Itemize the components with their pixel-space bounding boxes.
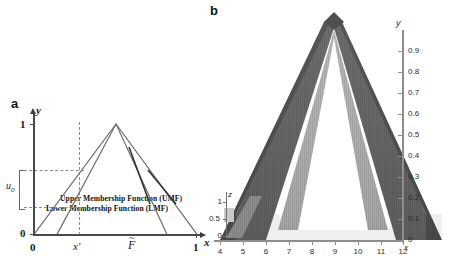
panel-b-x-tick-8: 12 — [396, 247, 410, 256]
panel-b-y-tick-mark-7 — [398, 198, 402, 199]
panel-b-y-tick-3: 0.6 — [408, 109, 419, 118]
figure-container: a Upper Membership Function (UMF) Lower … — [0, 0, 454, 276]
panel-b-y-tick-mark-8 — [398, 219, 402, 220]
panel-a-x-prime-label: x' — [73, 240, 80, 252]
panel-b-x-tick-mark-6 — [358, 241, 359, 245]
panel-b-y-tick-mark-4 — [398, 135, 402, 136]
fuzzy-set-symbol: ~F — [128, 238, 135, 253]
panel-b: y x 0.9 0.8 0.7 0.6 0.5 0.4 0.3 0.2 0.1 … — [206, 0, 454, 276]
panel-b-inset-axis: z 1 0.5 0 — [210, 192, 250, 248]
x-tick-mark-1 — [196, 234, 197, 238]
panel-b-y-axis-name: y — [396, 18, 401, 28]
panel-b-y-tick-7: 0.2 — [408, 193, 419, 202]
panel-b-x-tick-mark-7 — [381, 241, 382, 245]
panel-b-y-tick-8: 0.1 — [408, 214, 419, 223]
panel-b-x-tick-4: 8 — [305, 247, 319, 256]
panel-b-y-tick-mark-5 — [398, 156, 402, 157]
panel-b-y-tick-mark-2 — [398, 93, 402, 94]
panel-b-z-tick-1: 0.5 — [206, 214, 220, 223]
panel-a-x-axis — [33, 234, 201, 236]
y-tick-mark-0 — [30, 234, 34, 235]
panel-b-y-tick-5: 0.4 — [408, 151, 419, 160]
panel-b-z-tick-mark-0 — [223, 202, 227, 203]
panel-b-z-tick-2: 0 — [208, 231, 222, 240]
panel-b-y-tick-9: 0 — [408, 235, 412, 244]
panel-b-y-tick-mark-3 — [398, 114, 402, 115]
panel-b-y-tick-0: 0.9 — [408, 46, 419, 55]
panel-b-y-tick-mark-9 — [398, 240, 402, 241]
panel-b-x-tick-mark-2 — [266, 241, 267, 245]
panel-a-y-axis-name: y — [36, 104, 41, 116]
panel-b-y-tick-mark-6 — [398, 177, 402, 178]
panel-a-x-tick-0: 0 — [30, 241, 36, 253]
panel-b-y-tick-mark-1 — [398, 72, 402, 73]
panel-a-x-tick-1: 1 — [193, 241, 199, 253]
panel-b-x-tick-7: 11 — [374, 247, 388, 256]
panel-a-y-tick-1: 1 — [20, 118, 26, 130]
panel-b-x-tick-3: 7 — [282, 247, 296, 256]
panel-b-x-tick-mark-8 — [403, 241, 404, 245]
panel-b-y-tick-2: 0.7 — [408, 88, 419, 97]
panel-a-y-tick-0: 0 — [20, 227, 26, 239]
panel-b-z-tick-mark-2 — [223, 236, 227, 237]
umf-leader-line — [148, 170, 176, 204]
panel-a: Upper Membership Function (UMF) Lower Me… — [0, 86, 212, 276]
panel-b-x-tick-1: 5 — [236, 247, 250, 256]
panel-a-y-axis — [33, 114, 35, 236]
panel-b-z-tick-0: 1 — [208, 197, 222, 206]
lmf-curve — [57, 124, 167, 234]
panel-b-y-tick-4: 0.5 — [408, 130, 419, 139]
panel-b-x-tick-2: 6 — [259, 247, 273, 256]
panel-b-y-tick-6: 0.3 — [408, 172, 419, 181]
panel-b-x-tick-mark-5 — [335, 241, 336, 245]
y-tick-mark-1 — [30, 124, 34, 125]
panel-b-z-axis-name: z — [228, 190, 232, 199]
panel-b-y-tick-1: 0.8 — [408, 67, 419, 76]
panel-b-x-tick-5: 9 — [328, 247, 342, 256]
panel-b-z-tick-mark-1 — [223, 219, 227, 220]
panel-b-x-tick-mark-3 — [289, 241, 290, 245]
panel-b-x-tick-mark-4 — [312, 241, 313, 245]
umf-curve — [34, 124, 197, 234]
panel-b-y-axis — [402, 30, 404, 242]
panel-b-y-tick-mark-0 — [398, 51, 402, 52]
panel-b-x-tick-6: 10 — [351, 247, 365, 256]
panel-b-x-tick-0: 4 — [213, 247, 227, 256]
